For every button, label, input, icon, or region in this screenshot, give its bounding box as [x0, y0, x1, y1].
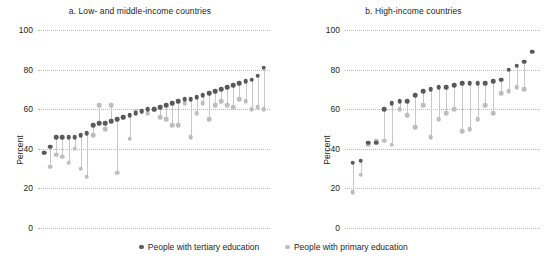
data-point-primary	[358, 172, 363, 177]
connector-line	[264, 68, 265, 110]
gridline-20	[345, 188, 540, 189]
y-axis-label-a: Percent	[15, 125, 25, 175]
data-point-primary	[436, 117, 441, 122]
data-point-tertiary	[219, 87, 224, 92]
connector-line	[252, 80, 253, 110]
connector-line	[462, 83, 463, 131]
data-point-tertiary	[358, 158, 363, 163]
data-point-primary	[146, 111, 151, 116]
plot-area-b	[345, 30, 540, 228]
data-point-primary	[405, 113, 410, 118]
legend-item-tertiary: People with tertiary education	[139, 242, 259, 252]
y-tick-label-20: 20	[11, 183, 33, 193]
data-point-primary	[109, 103, 114, 108]
data-point-tertiary	[249, 77, 254, 82]
data-point-tertiary	[499, 77, 504, 82]
y-axis-label-b: Percent	[322, 125, 332, 175]
data-point-primary	[255, 105, 260, 110]
connector-line	[191, 99, 192, 137]
data-point-primary	[397, 107, 402, 112]
gridline-20	[38, 188, 270, 189]
data-point-tertiary	[60, 135, 65, 140]
y-tick-label-100: 100	[318, 25, 340, 35]
data-point-primary	[452, 107, 457, 112]
data-point-primary	[413, 125, 418, 130]
data-point-tertiary	[188, 97, 193, 102]
data-point-primary	[103, 127, 108, 132]
connector-line	[117, 119, 118, 172]
data-point-tertiary	[351, 160, 356, 165]
data-point-tertiary	[85, 131, 90, 136]
data-point-tertiary	[78, 133, 83, 138]
data-point-primary	[231, 105, 236, 110]
plot-area-a	[38, 30, 270, 228]
data-point-primary	[85, 174, 90, 179]
data-point-tertiary	[158, 105, 163, 110]
figure-root: a. Low- and middle-income countries 0204…	[0, 0, 547, 256]
data-point-tertiary	[460, 81, 465, 86]
data-point-tertiary	[243, 79, 248, 84]
data-point-tertiary	[139, 109, 144, 114]
connector-line	[431, 89, 432, 137]
connector-line	[87, 133, 88, 177]
data-point-primary	[249, 107, 254, 112]
legend-item-primary: People with primary education	[285, 242, 407, 252]
connector-line	[81, 135, 82, 169]
data-point-tertiary	[72, 135, 77, 140]
gridline-100	[345, 30, 540, 31]
data-point-tertiary	[237, 81, 242, 86]
connector-line	[209, 93, 210, 119]
data-point-primary	[164, 117, 169, 122]
connector-line	[384, 109, 385, 141]
y-tick-label-100: 100	[11, 25, 33, 35]
data-point-tertiary	[397, 99, 402, 104]
data-point-tertiary	[91, 123, 96, 128]
gridline-100	[38, 30, 270, 31]
y-tick-label-0: 0	[11, 223, 33, 233]
data-point-primary	[468, 127, 473, 132]
data-point-tertiary	[491, 79, 496, 84]
data-point-tertiary	[152, 107, 157, 112]
data-point-tertiary	[109, 119, 114, 124]
data-point-primary	[351, 190, 356, 195]
data-point-tertiary	[194, 95, 199, 100]
data-point-tertiary	[255, 73, 260, 78]
data-point-tertiary	[452, 83, 457, 88]
gridline-60	[345, 109, 540, 110]
data-point-tertiary	[436, 85, 441, 90]
data-point-tertiary	[201, 93, 206, 98]
data-point-primary	[499, 91, 504, 96]
connector-line	[470, 83, 471, 129]
data-point-tertiary	[182, 97, 187, 102]
y-tick-label-80: 80	[318, 65, 340, 75]
data-point-tertiary	[429, 87, 434, 92]
data-point-tertiary	[133, 111, 138, 116]
data-point-primary	[390, 143, 395, 148]
data-point-primary	[207, 117, 212, 122]
connector-line	[478, 83, 479, 119]
data-point-primary	[213, 103, 218, 108]
data-point-tertiary	[366, 141, 371, 146]
data-point-tertiary	[42, 150, 47, 155]
data-point-tertiary	[170, 101, 175, 106]
gridline-0	[38, 228, 270, 229]
data-point-tertiary	[382, 107, 387, 112]
data-point-tertiary	[146, 107, 151, 112]
data-point-primary	[491, 111, 496, 116]
connector-line	[493, 81, 494, 113]
gridline-0	[345, 228, 540, 229]
data-point-primary	[60, 154, 65, 159]
y-tick-label-20: 20	[318, 183, 340, 193]
data-point-tertiary	[468, 81, 473, 86]
data-point-primary	[243, 99, 248, 104]
data-point-primary	[97, 103, 102, 108]
data-point-primary	[225, 103, 230, 108]
connector-line	[446, 87, 447, 113]
data-point-primary	[115, 170, 120, 175]
data-point-primary	[237, 97, 242, 102]
data-point-tertiary	[121, 115, 126, 120]
connector-line	[439, 87, 440, 119]
data-point-primary	[262, 107, 267, 112]
data-point-tertiary	[421, 89, 426, 94]
data-point-tertiary	[225, 85, 230, 90]
